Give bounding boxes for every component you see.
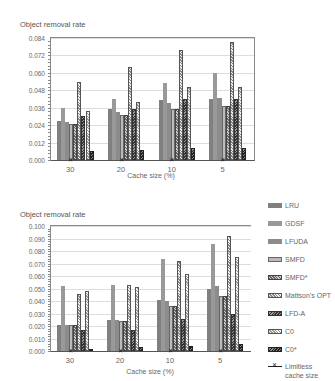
gridline bbox=[51, 289, 251, 290]
y-tick-mark bbox=[48, 294, 51, 295]
legend-item-smfd-star: SMFD* bbox=[268, 274, 308, 281]
mattsons-opt-swatch-icon bbox=[268, 293, 282, 298]
legend-item-limitless: Limitless cache size bbox=[268, 362, 332, 380]
y-tick-mark bbox=[48, 296, 51, 297]
y-tick-mark bbox=[48, 329, 51, 330]
bar-c0--5 bbox=[239, 344, 243, 352]
y-tick-mark bbox=[48, 241, 51, 242]
c0-swatch-icon bbox=[268, 329, 282, 334]
legend-item-c0-star: C0* bbox=[268, 346, 297, 353]
x-tick-label: 30 bbox=[66, 356, 74, 365]
y-tick-mark bbox=[48, 339, 51, 340]
y-tick-mark bbox=[48, 239, 51, 240]
bar-c0-20 bbox=[135, 287, 139, 351]
y-tick-mark bbox=[48, 331, 51, 332]
c0-star-swatch-icon bbox=[268, 347, 282, 352]
y-tick-label: 0.010 bbox=[29, 335, 45, 342]
y-tick-mark bbox=[48, 314, 51, 315]
y-tick-mark bbox=[48, 344, 51, 345]
y-tick-mark bbox=[48, 336, 51, 337]
lfd-a-swatch-icon bbox=[268, 311, 282, 316]
y-tick-mark bbox=[48, 229, 51, 230]
y-tick-mark bbox=[48, 236, 51, 237]
y-tick-label: 0.070 bbox=[29, 260, 45, 267]
limitless-cache-marker-icon: ✕ bbox=[118, 348, 123, 354]
y-tick-label: 0.050 bbox=[29, 285, 45, 292]
y-tick-mark bbox=[48, 244, 51, 245]
legend-item-lfd-a: LFD-A bbox=[268, 310, 305, 317]
y-tick-label: 0.030 bbox=[29, 310, 45, 317]
y-tick-mark bbox=[48, 281, 51, 282]
y-tick-mark bbox=[48, 234, 51, 235]
y-tick-mark bbox=[48, 311, 51, 312]
lfuda-swatch-icon bbox=[268, 239, 282, 244]
limitless-cache-marker-icon: ✕ bbox=[68, 348, 73, 354]
legend-item-lfuda: LFUDA bbox=[268, 238, 308, 245]
legend-item-lru: LRU bbox=[268, 202, 299, 209]
y-tick-mark bbox=[48, 326, 51, 327]
y-tick-mark bbox=[48, 256, 51, 257]
y-tick-mark bbox=[48, 324, 51, 325]
y-tick-mark bbox=[48, 249, 51, 250]
bar-c0--30 bbox=[89, 349, 93, 352]
y-tick-mark bbox=[48, 264, 51, 265]
y-tick-label: 0.020 bbox=[29, 323, 45, 330]
x-tick-label: 5 bbox=[218, 356, 222, 365]
x-tick-label: 10 bbox=[166, 356, 174, 365]
y-tick-label: 0.060 bbox=[29, 273, 45, 280]
bar-c0-10 bbox=[185, 274, 189, 352]
y-tick-mark bbox=[48, 349, 51, 350]
y-tick-mark bbox=[48, 316, 51, 317]
limitless-line-marker-icon bbox=[268, 364, 282, 369]
bar-c0--10 bbox=[189, 346, 193, 351]
y-tick-mark bbox=[48, 279, 51, 280]
y-tick-mark bbox=[48, 269, 51, 270]
x-tick-label: 20 bbox=[116, 356, 124, 365]
gridline bbox=[51, 276, 251, 277]
limitless-cache-marker-icon: ✕ bbox=[168, 348, 173, 354]
y-tick-mark bbox=[48, 254, 51, 255]
y-tick-mark bbox=[48, 261, 51, 262]
y-tick-mark bbox=[48, 306, 51, 307]
limitless-cache-marker-icon: ✕ bbox=[218, 348, 223, 354]
bar-c0-30 bbox=[85, 291, 89, 351]
gridline bbox=[51, 239, 251, 240]
y-tick-mark bbox=[48, 319, 51, 320]
y-tick-mark bbox=[48, 289, 51, 290]
chart-bottom: Object removal rate 0.0000.0100.0200.030… bbox=[0, 0, 335, 381]
lru-swatch-icon bbox=[268, 203, 282, 208]
legend-item-smfd: SMFD bbox=[268, 256, 305, 263]
y-tick-label: 0.090 bbox=[29, 235, 45, 242]
y-tick-mark bbox=[48, 321, 51, 322]
y-tick-mark bbox=[48, 259, 51, 260]
y-tick-mark bbox=[48, 286, 51, 287]
y-tick-mark bbox=[48, 274, 51, 275]
gridline bbox=[51, 251, 251, 252]
y-tick-mark bbox=[48, 276, 51, 277]
gridline bbox=[51, 264, 251, 265]
y-tick-mark bbox=[48, 291, 51, 292]
y-axis-title: Object removal rate bbox=[20, 210, 85, 219]
smfd-swatch-icon bbox=[268, 257, 282, 262]
y-tick-mark bbox=[48, 341, 51, 342]
y-tick-mark bbox=[48, 231, 51, 232]
gridline bbox=[51, 226, 251, 227]
gdsf-swatch-icon bbox=[268, 221, 282, 226]
y-tick-mark bbox=[48, 351, 51, 352]
y-tick-mark bbox=[48, 266, 51, 267]
y-tick-mark bbox=[48, 301, 51, 302]
legend-item-mattsons-opt: Mattson's OPT bbox=[268, 292, 331, 299]
y-tick-mark bbox=[48, 251, 51, 252]
y-tick-mark bbox=[48, 299, 51, 300]
y-tick-label: 0.080 bbox=[29, 248, 45, 255]
y-tick-mark bbox=[48, 309, 51, 310]
x-axis-title: Cache size (%) bbox=[126, 368, 173, 375]
y-tick-label: 0.000 bbox=[29, 348, 45, 355]
y-tick-mark bbox=[48, 246, 51, 247]
legend-item-gdsf: GDSF bbox=[268, 220, 304, 227]
bar-c0-5 bbox=[235, 257, 239, 351]
legend-item-c0: C0 bbox=[268, 328, 294, 335]
bar-c0--20 bbox=[139, 347, 143, 351]
y-tick-label: 0.100 bbox=[29, 223, 45, 230]
plot-area: 0.0000.0100.0200.0300.0400.0500.0600.070… bbox=[50, 225, 251, 352]
